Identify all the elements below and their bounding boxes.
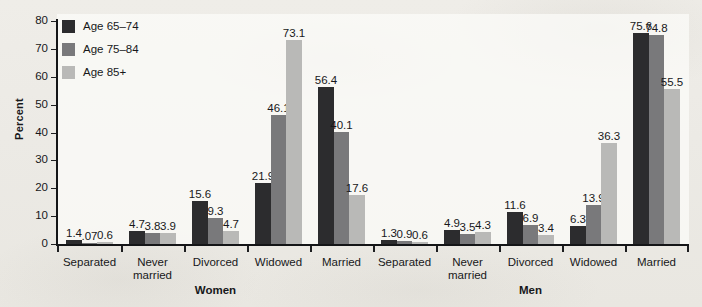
bar <box>271 115 287 244</box>
bar-value-label: 4.7 <box>214 218 248 230</box>
x-tick-mark <box>373 246 375 252</box>
x-axis-end-tick <box>57 246 59 252</box>
bar <box>129 231 145 244</box>
group-label: Men <box>373 284 688 296</box>
bar <box>633 33 649 244</box>
legend-swatch-icon <box>62 43 75 56</box>
bar-value-label: 11.6 <box>498 199 532 211</box>
bar <box>538 235 554 244</box>
bar-value-label: 9.3 <box>199 205 233 217</box>
legend-label: Age 65–74 <box>83 20 139 32</box>
bar <box>381 240 397 244</box>
legend-item-3[interactable]: Age 85+ <box>62 62 139 82</box>
bar <box>97 242 113 244</box>
bar-value-label: 3.4 <box>529 222 563 234</box>
y-tick-label-10: 10 <box>22 210 48 221</box>
bar <box>397 241 413 244</box>
grouped-bar-chart: Percent 01020304050607080 Age 65–74Age 7… <box>0 0 702 307</box>
bar <box>586 205 602 244</box>
x-tick-mark <box>625 246 627 252</box>
legend-item-2[interactable]: Age 75–84 <box>62 39 139 59</box>
bar-value-label: 4.3 <box>466 219 500 231</box>
category-label: Widowed <box>562 256 625 269</box>
bar <box>412 242 428 244</box>
category-label: Divorced <box>499 256 562 269</box>
y-tick-label-50: 50 <box>22 99 48 110</box>
legend-swatch-icon <box>62 66 75 79</box>
bar-value-label: 36.3 <box>592 130 626 142</box>
y-tick-label-0: 0 <box>22 238 48 249</box>
category-label: Never married <box>436 256 499 282</box>
x-tick-mark <box>499 246 501 252</box>
y-axis-title: Percent <box>13 84 25 154</box>
bar <box>349 195 365 244</box>
category-label: Separated <box>58 256 121 269</box>
x-tick-mark <box>310 246 312 252</box>
bar <box>286 40 302 244</box>
bar <box>318 87 334 244</box>
x-axis-end-tick <box>687 246 689 252</box>
bar-value-label: 74.8 <box>640 22 674 34</box>
bar <box>255 183 271 244</box>
category-label: Separated <box>373 256 436 269</box>
y-tick-label-70: 70 <box>22 43 48 54</box>
y-tick-label-60: 60 <box>22 71 48 82</box>
bar-value-label: 17.6 <box>340 182 374 194</box>
bar-value-label: 40.1 <box>325 119 359 131</box>
x-tick-mark <box>562 246 564 252</box>
bar-value-label: 55.5 <box>655 76 689 88</box>
bar <box>570 226 586 244</box>
bar-value-label: 73.1 <box>277 27 311 39</box>
y-tick-label-30: 30 <box>22 154 48 165</box>
legend-swatch-icon <box>62 20 75 33</box>
y-tick-label-40: 40 <box>22 127 48 138</box>
bar <box>601 143 617 244</box>
y-tick-label-80: 80 <box>22 15 48 26</box>
bar <box>223 231 239 244</box>
bar-value-label: 56.4 <box>309 74 343 86</box>
bar <box>460 234 476 244</box>
bar <box>475 232 491 244</box>
x-tick-mark <box>184 246 186 252</box>
bar-value-label: 3.9 <box>151 220 185 232</box>
legend-label: Age 85+ <box>83 66 126 78</box>
bar <box>649 35 665 244</box>
legend-label: Age 75–84 <box>83 43 139 55</box>
x-tick-mark <box>436 246 438 252</box>
category-label: Married <box>625 256 688 269</box>
category-label: Married <box>310 256 373 269</box>
category-label: Widowed <box>247 256 310 269</box>
legend-item-1[interactable]: Age 65–74 <box>62 16 139 36</box>
bar <box>145 233 161 244</box>
category-label: Divorced <box>184 256 247 269</box>
bar-value-label: 0.6 <box>403 229 437 241</box>
category-label: Never married <box>121 256 184 282</box>
bar-value-label: 15.6 <box>183 188 217 200</box>
y-axis-line <box>56 19 58 245</box>
legend: Age 65–74Age 75–84Age 85+ <box>62 16 139 85</box>
x-tick-mark <box>121 246 123 252</box>
group-label: Women <box>58 284 373 296</box>
bar-value-label: 0.6 <box>88 229 122 241</box>
bar <box>160 233 176 244</box>
x-tick-mark <box>247 246 249 252</box>
bar <box>82 243 98 245</box>
y-tick-label-20: 20 <box>22 182 48 193</box>
bar <box>664 89 680 244</box>
